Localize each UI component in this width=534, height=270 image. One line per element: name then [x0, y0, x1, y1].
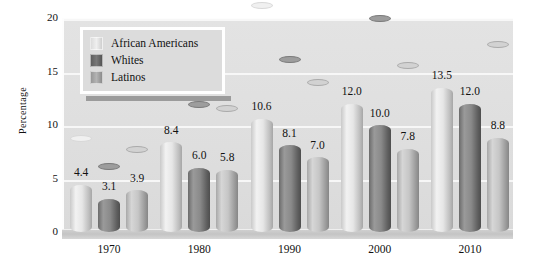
bar-body: [98, 199, 120, 232]
bar-group: 13.512.08.8: [431, 18, 509, 232]
bar-top-cap: [126, 146, 148, 153]
x-axis-tick-label: 1970: [98, 243, 121, 255]
bar-value-label: 5.8: [220, 152, 234, 164]
bar[interactable]: 7.8: [397, 149, 419, 232]
bar-top-cap: [307, 79, 329, 86]
x-axis-tick-label: 2000: [368, 243, 391, 255]
bar-body: [251, 119, 273, 232]
bar-top-cap: [188, 101, 210, 108]
bar-top-cap: [216, 105, 238, 112]
legend-label: African Americans: [111, 38, 198, 50]
bar-body: [307, 157, 329, 232]
bar-top-cap: [98, 163, 120, 170]
bar-body: [397, 149, 419, 232]
bar[interactable]: 10.6: [251, 119, 273, 232]
legend-swatch: [90, 71, 103, 84]
bar-value-label: 4.4: [74, 167, 88, 179]
y-axis-tick-label: 10: [24, 119, 58, 130]
legend-label: Whites: [111, 55, 144, 67]
bar-body: [126, 190, 148, 232]
y-axis-ticks: 05101520: [20, 0, 58, 270]
bar-value-label: 7.0: [310, 140, 324, 152]
bar[interactable]: 10.0: [369, 125, 391, 232]
bar-value-label: 6.0: [192, 150, 206, 162]
legend-item[interactable]: Latinos: [90, 69, 216, 86]
bar-top-cap: [251, 2, 273, 9]
bar[interactable]: 3.1: [98, 199, 120, 232]
y-axis-tick-label: 0: [24, 226, 58, 237]
bar-top-cap: [70, 135, 92, 142]
bar-body: [160, 142, 182, 232]
bar-group: 12.010.07.8: [341, 18, 419, 232]
bar[interactable]: 5.8: [216, 170, 238, 232]
x-axis-tick-label: 1990: [278, 243, 301, 255]
bar-body: [70, 185, 92, 232]
bar-top-cap: [369, 15, 391, 22]
bar-value-label: 12.0: [342, 86, 362, 98]
bar[interactable]: 7.0: [307, 157, 329, 232]
x-axis-tick-label: 2010: [458, 243, 481, 255]
chart-legend: African AmericansWhitesLatinos: [80, 27, 225, 94]
bar-body: [341, 104, 363, 232]
bar-body: [431, 88, 453, 232]
bar[interactable]: 8.1: [279, 145, 301, 232]
bar-body: [188, 168, 210, 232]
bar-chart: Percentage 05101520 4.43.13.98.46.05.810…: [0, 0, 534, 270]
bar-value-label: 3.1: [102, 181, 116, 193]
bar-top-cap: [487, 41, 509, 48]
bar-body: [487, 138, 509, 232]
y-axis-tick-label: 15: [24, 66, 58, 77]
bar-value-label: 12.0: [460, 86, 480, 98]
bar-value-label: 13.5: [432, 70, 452, 82]
bar-value-label: 10.0: [370, 108, 390, 120]
y-axis-tick-label: 20: [24, 12, 58, 23]
x-axis-ticks: 19701980199020002010: [62, 243, 513, 263]
bar-top-cap: [397, 62, 419, 69]
bar[interactable]: 12.0: [459, 104, 481, 232]
bar-top-cap: [279, 56, 301, 63]
bar-body: [216, 170, 238, 232]
bar-value-label: 7.8: [401, 131, 415, 143]
bar-body: [369, 125, 391, 232]
y-axis-tick-label: 5: [24, 173, 58, 184]
legend-item[interactable]: Whites: [90, 52, 216, 69]
legend-swatch: [90, 37, 103, 50]
bar[interactable]: 12.0: [341, 104, 363, 232]
legend-swatch: [90, 54, 103, 67]
bar[interactable]: 13.5: [431, 88, 453, 232]
bar[interactable]: 3.9: [126, 190, 148, 232]
legend-shadow: [86, 96, 231, 101]
bar[interactable]: 6.0: [188, 168, 210, 232]
bar-value-label: 8.8: [491, 120, 505, 132]
bar[interactable]: 8.8: [487, 138, 509, 232]
bar-value-label: 10.6: [251, 101, 271, 113]
bar-value-label: 8.4: [164, 125, 178, 137]
legend-label: Latinos: [111, 72, 146, 84]
bar-group: 10.68.17.0: [251, 18, 329, 232]
bar-value-label: 8.1: [282, 128, 296, 140]
x-axis-tick-label: 1980: [188, 243, 211, 255]
bar-body: [459, 104, 481, 232]
bar[interactable]: 8.4: [160, 142, 182, 232]
bar-body: [279, 145, 301, 232]
bar[interactable]: 4.4: [70, 185, 92, 232]
bar-value-label: 3.9: [130, 173, 144, 185]
legend-item[interactable]: African Americans: [90, 35, 216, 52]
